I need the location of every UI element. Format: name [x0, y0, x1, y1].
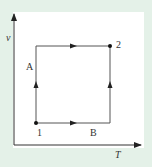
process-diagram	[0, 0, 152, 167]
path-B-label: B	[90, 128, 97, 138]
arrow-up-icon	[34, 81, 39, 88]
x-axis-label: T	[115, 150, 121, 160]
state-1-label: 1	[37, 128, 42, 138]
state-2-label: 2	[116, 40, 121, 50]
y-axis-label: v	[6, 33, 10, 43]
arrow-right-icon	[70, 44, 77, 49]
arrow-up-icon	[108, 81, 113, 88]
state-1-point	[34, 121, 38, 125]
state-2-point	[108, 44, 112, 48]
path-A-label: A	[26, 62, 33, 72]
arrow-right-icon	[70, 121, 77, 126]
